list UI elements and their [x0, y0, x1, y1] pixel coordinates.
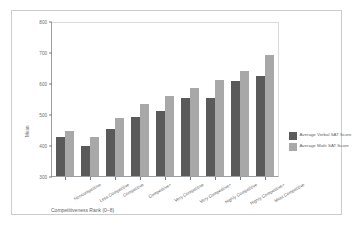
bar-math[interactable] [215, 80, 224, 176]
x-axis-tick-mark [240, 177, 241, 180]
x-axis-tick-mark [115, 177, 116, 180]
x-axis-tick-mark [215, 177, 216, 180]
legend-label: Average Math SAT Score [300, 143, 349, 148]
x-axis-tick-mark [165, 177, 166, 180]
bar-math[interactable] [265, 55, 274, 176]
chart-legend: Average Verbal SAT ScoreAverage Math SAT… [289, 132, 353, 154]
bar-group [56, 23, 74, 176]
x-axis-tick-mark [90, 177, 91, 180]
x-axis-title: Competitiveness Rank (0–8) [51, 207, 114, 213]
x-axis-tick-mark [265, 177, 266, 180]
y-axis-title: Mean [25, 126, 30, 138]
y-axis-tick-mark [49, 177, 52, 178]
bar-math[interactable] [115, 118, 124, 176]
bar-group [181, 23, 199, 176]
bar-math[interactable] [140, 104, 149, 176]
legend-item[interactable]: Average Math SAT Score [289, 143, 353, 151]
bar-verbal[interactable] [156, 111, 165, 176]
bar-verbal[interactable] [231, 81, 240, 176]
bar-verbal[interactable] [181, 98, 190, 176]
x-axis-tick-label: Noncompetitive [73, 182, 102, 201]
bar-group [81, 23, 99, 176]
bar-verbal[interactable] [206, 98, 215, 176]
bar-math[interactable] [190, 88, 199, 176]
bar-math[interactable] [165, 96, 174, 176]
bar-verbal[interactable] [56, 137, 65, 176]
legend-label: Average Verbal SAT Score [300, 132, 352, 137]
bar-verbal[interactable] [81, 146, 90, 176]
bar-verbal[interactable] [256, 76, 265, 176]
x-axis-tick-mark [65, 177, 66, 180]
bar-group [231, 23, 249, 176]
plot-area: 300400500600700800 NoncompetitiveLess Co… [51, 22, 279, 177]
bar-group [206, 23, 224, 176]
bar-math[interactable] [240, 71, 249, 176]
bar-verbal[interactable] [106, 129, 115, 176]
bar-group [106, 23, 124, 176]
legend-swatch-icon [289, 132, 297, 140]
x-axis-tick-label: Competitive+ [147, 182, 172, 199]
bar-math[interactable] [65, 131, 74, 176]
bar-verbal[interactable] [131, 117, 140, 176]
chart-figure: Mean 300400500600700800 NoncompetitiveLe… [11, 10, 342, 215]
legend-item[interactable]: Average Verbal SAT Score [289, 132, 353, 140]
bar-group [156, 23, 174, 176]
legend-swatch-icon [289, 143, 297, 151]
bar-group [131, 23, 149, 176]
bar-group [256, 23, 274, 176]
bar-series-container [52, 23, 278, 176]
bar-math[interactable] [90, 137, 99, 176]
x-axis-tick-mark [190, 177, 191, 180]
x-axis-tick-mark [140, 177, 141, 180]
